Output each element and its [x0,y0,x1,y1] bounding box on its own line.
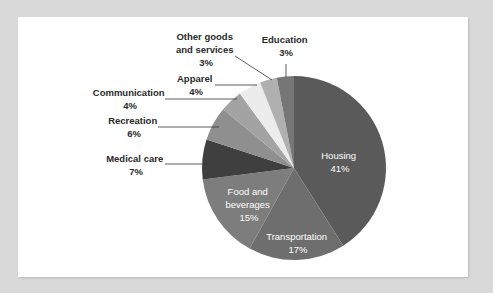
other-label: Other goods and services 3% [176,31,236,68]
pie-chart: Education 3% Other goods and services 3%… [0,0,493,293]
apparel-label: Apparel 4% [177,73,215,97]
recreation-label: Recreation 6% [108,115,160,139]
communication-label: Communication 4% [93,87,167,111]
other-leader-line [235,56,272,80]
education-label: Education 3% [262,34,311,58]
medical-label: Medical care 7% [106,153,166,177]
